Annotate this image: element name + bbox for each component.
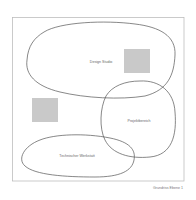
label-design-studio: Design Studio <box>90 60 112 64</box>
label-projektbereich: Projektbereich <box>128 119 151 123</box>
block-upper-right <box>124 49 150 73</box>
plan-caption: Grundriss Ebene 1 <box>153 186 183 190</box>
label-technische-werkstatt: Technischer Werkstatt <box>59 154 94 158</box>
block-left <box>32 98 58 122</box>
floor-plan-diagram: Design Studio Projektbereich Technischer… <box>0 0 196 200</box>
